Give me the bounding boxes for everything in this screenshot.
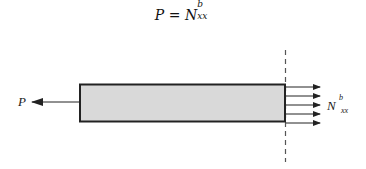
free-body-diagram xyxy=(0,0,366,169)
right-force-label-base: N xyxy=(327,98,336,113)
right-force-arrows xyxy=(286,87,320,123)
right-force-label-sub: xx xyxy=(341,106,348,115)
left-force-label: P xyxy=(18,94,26,110)
bar-body xyxy=(80,85,285,122)
right-force-label: N b xx xyxy=(327,98,336,114)
right-force-label-sup: b xyxy=(339,93,343,102)
